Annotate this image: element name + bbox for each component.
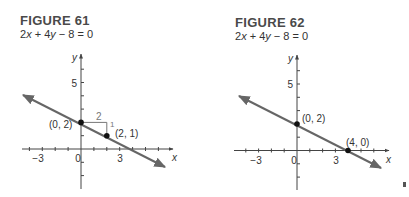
x-tick-label: −3 [250, 155, 262, 166]
x-tick-label: 0 [291, 155, 297, 166]
point-0-2 [294, 121, 300, 127]
figure-62-plot: −3 0 3 5 x y (0, 2) (4, 0) [234, 53, 392, 190]
point-2-1 [104, 133, 110, 139]
y-axis-label: y [287, 53, 294, 64]
point-label: (2, 1) [115, 128, 138, 139]
figure-61-plot: −3 0 3 5 x y 2 1 (0, 2) (2, 1) [22, 52, 178, 189]
x-tick-label: 3 [333, 155, 339, 166]
x-axis-label: x [385, 154, 392, 165]
x-axis-label: x [171, 152, 178, 163]
slope-triangle [81, 122, 107, 135]
point-label: (4, 0) [346, 137, 369, 148]
x-tick-label: −3 [32, 153, 44, 164]
y-axis-label: y [71, 52, 78, 63]
x-tick-label: 3 [117, 153, 123, 164]
point-0-2 [78, 120, 84, 126]
end-mark [403, 182, 406, 187]
point-label: (0, 2) [49, 119, 72, 130]
y-tick-label: 5 [287, 79, 293, 90]
y-tick-label: 5 [71, 78, 77, 89]
run-label: 2 [96, 111, 102, 122]
figures-canvas: −3 0 3 5 x y 2 1 (0, 2) (2, 1) −3 [0, 0, 409, 197]
point-4-0 [345, 148, 351, 154]
point-label: (0, 2) [302, 113, 325, 124]
graph-line [23, 95, 165, 167]
x-tick-label: 0 [75, 153, 81, 164]
